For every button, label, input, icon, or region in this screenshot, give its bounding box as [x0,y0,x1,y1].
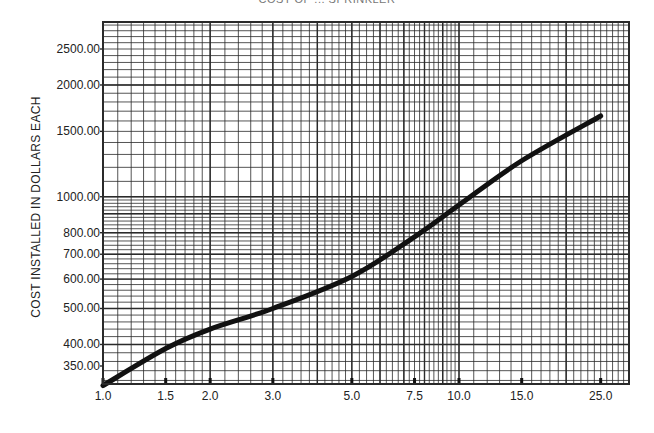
x-tick-label: 10.0 [447,389,471,403]
x-tick-label: 3.0 [265,389,282,403]
x-tick-labels: 1.01.52.03.05.07.510.015.025.0 [95,389,613,403]
x-tick-label: 15.0 [510,389,534,403]
y-tick-label: 800.00 [63,226,100,240]
x-tick-label: 2.0 [202,389,219,403]
y-tick-label: 600.00 [63,272,100,286]
y-tick-labels: 350.00400.00500.00600.00700.00800.001000… [57,42,101,373]
cost-chart: 1.01.52.03.05.07.510.015.025.0 350.00400… [0,0,654,433]
x-tick-label: 25.0 [589,389,613,403]
y-tick-label: 350.00 [63,359,100,373]
y-tick-label: 700.00 [63,247,100,261]
grid-minor [103,22,629,384]
y-tick-label: 1500.00 [57,124,101,138]
y-tick-label: 2000.00 [57,78,101,92]
y-tick-label: 500.00 [63,301,100,315]
x-tick-label: 5.0 [343,389,360,403]
x-tick-label: 7.5 [406,389,423,403]
y-tick-label: 400.00 [63,337,100,351]
x-tick-label: 1.5 [157,389,174,403]
y-tick-label: 1000.00 [57,190,101,204]
y-tick-label: 2500.00 [57,42,101,56]
x-tick-label: 1.0 [95,389,112,403]
